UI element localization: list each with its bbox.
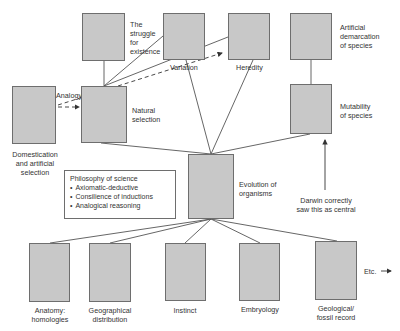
- node-domestication-box: [12, 86, 56, 144]
- node-heredity-label: Heredity: [236, 63, 263, 72]
- node-mutability-box: [290, 84, 332, 134]
- node-embryology-box: [239, 243, 280, 301]
- node-geographical-label: Geographical distribution: [80, 306, 140, 324]
- node-geological-label: Geological/ fossil record: [306, 304, 366, 322]
- node-instinct-label: Instinct: [155, 306, 215, 315]
- darwin-note: Darwin correctly saw this as central: [286, 196, 366, 214]
- node-embryology-label: Embryology: [230, 305, 290, 314]
- node-artificial-demarcation-label: Artificial demarcation of species: [340, 23, 380, 50]
- node-natural-selection-box: [81, 86, 127, 143]
- node-geological-box: [315, 241, 357, 300]
- philosophy-item: Consilience of inductions: [70, 192, 175, 201]
- node-evolution-box: [188, 154, 234, 219]
- node-heredity-box: [228, 13, 270, 60]
- node-evolution-label: Evolution of organisms: [239, 180, 277, 198]
- philosophy-list: Axiomatic-deductive Consilience of induc…: [70, 183, 175, 210]
- node-variation-box: [163, 13, 205, 60]
- node-instinct-box: [165, 243, 206, 301]
- node-mutability-label: Mutability of species: [340, 102, 372, 120]
- node-domestication-label: Domestication and artificial selection: [4, 150, 66, 177]
- philosophy-title: Philosophy of science: [70, 174, 175, 183]
- node-struggle-box: [82, 13, 125, 61]
- philosophy-item: Axiomatic-deductive: [70, 183, 175, 192]
- node-variation-label: Variation: [170, 63, 198, 72]
- analogy-label: Analogy: [56, 91, 82, 100]
- node-anatomy-label: Anatomy: homologies: [20, 306, 80, 324]
- node-geographical-box: [89, 243, 131, 302]
- node-artificial-demarcation-box: [290, 13, 332, 60]
- etc-label: Etc.: [364, 267, 376, 276]
- node-anatomy-box: [29, 243, 70, 302]
- philosophy-of-science-box: Philosophy of science Axiomatic-deductiv…: [64, 170, 176, 219]
- node-natural-selection-label: Natural selection: [132, 106, 160, 124]
- node-struggle-label: The struggle for existence: [130, 20, 160, 56]
- philosophy-item: Analogical reasoning: [70, 201, 175, 210]
